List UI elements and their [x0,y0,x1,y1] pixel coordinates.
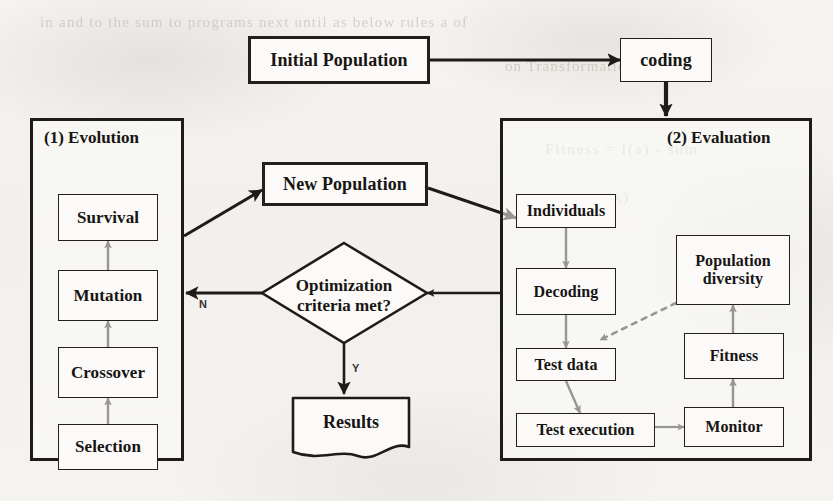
node-population-diversity[interactable]: Population diversity [676,235,790,305]
node-new-population-label: New Population [283,174,407,194]
node-decision-line-2: criteria met? [297,296,391,315]
node-mutation-label: Mutation [74,286,143,305]
node-test-execution[interactable]: Test execution [516,413,655,447]
node-new-population[interactable]: New Population [262,162,428,206]
node-survival-label: Survival [77,208,139,227]
node-monitor-label: Monitor [705,418,763,436]
node-population-diversity-line-1: Population [695,252,771,270]
node-individuals-label: Individuals [527,202,605,220]
node-results-label: Results [293,412,409,433]
node-coding-label: coding [640,50,692,70]
node-monitor[interactable]: Monitor [684,407,784,447]
node-decoding[interactable]: Decoding [516,268,616,315]
node-decision-label: Optimization criteria met? [264,276,424,315]
panel-evaluation-title: (2) Evaluation [667,128,770,148]
node-coding[interactable]: coding [620,38,712,82]
node-mutation[interactable]: Mutation [58,270,158,321]
node-test-data-label: Test data [535,356,598,374]
node-initial-population-label: Initial Population [270,50,407,70]
figure-canvas: in and to the sum to programs next until… [0,0,833,501]
node-decision-line-1: Optimization [296,276,392,295]
node-initial-population[interactable]: Initial Population [248,36,430,84]
node-fitness-label: Fitness [710,347,759,365]
node-individuals[interactable]: Individuals [516,194,616,228]
node-selection-label: Selection [75,437,141,456]
panel-evolution-title: (1) Evolution [44,128,139,148]
edge-label-no: N [199,298,207,310]
node-population-diversity-line-2: diversity [703,270,763,288]
node-crossover-label: Crossover [71,363,145,382]
node-decoding-label: Decoding [534,283,599,301]
node-fitness[interactable]: Fitness [684,333,784,379]
node-survival[interactable]: Survival [58,194,158,241]
node-crossover[interactable]: Crossover [58,347,158,398]
edge-label-yes: Y [352,362,359,374]
node-test-execution-label: Test execution [536,421,634,439]
node-test-data[interactable]: Test data [516,348,616,381]
node-selection[interactable]: Selection [58,424,158,470]
edge-evolution-to-new-population [184,190,262,236]
